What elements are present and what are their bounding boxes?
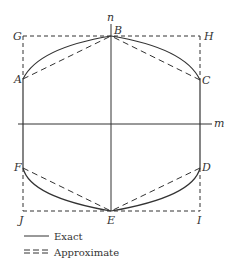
label-d: D — [201, 161, 211, 174]
label-n: n — [107, 11, 114, 24]
legend-label-exact: Exact — [54, 231, 83, 242]
legend-label-approximate: Approximate — [53, 247, 119, 258]
label-m: m — [214, 117, 224, 130]
legend: Exact Approximate — [24, 231, 119, 258]
label-f: F — [13, 161, 22, 174]
label-e: E — [106, 214, 115, 227]
label-b: B — [113, 24, 122, 37]
label-a: A — [13, 73, 22, 86]
interaction-diagram: n m G B H A C F D J E I Exact Approximat… — [0, 0, 232, 269]
label-g: G — [13, 30, 22, 43]
label-j: J — [17, 214, 24, 227]
label-c: C — [202, 74, 211, 87]
label-h: H — [203, 30, 214, 43]
label-i: I — [196, 214, 202, 227]
